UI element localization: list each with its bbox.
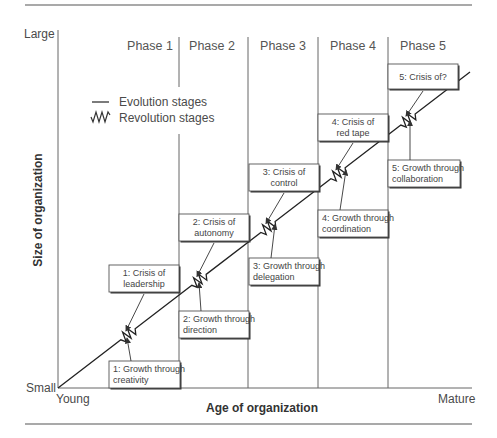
legend: Evolution stages Revolution stages	[91, 95, 214, 125]
growth-box-line2: creativity	[113, 375, 149, 385]
crisis-box-line1: 2: Crisis of	[193, 217, 236, 227]
y-bottom-label: Small	[26, 381, 56, 395]
growth-box-line2: collaboration	[392, 174, 443, 184]
crisis-box-line2: control	[270, 178, 297, 188]
crisis-arrow	[406, 91, 423, 116]
growth-box-2: 2: Growth throughdirection	[179, 311, 255, 340]
phase-label-1: Phase 1	[127, 39, 173, 53]
crisis-box-line2: leadership	[123, 279, 165, 289]
growth-arrow	[127, 338, 131, 361]
crisis-arrow	[126, 294, 144, 331]
growth-box-line1: 2: Growth through	[183, 314, 255, 324]
evolution-legend-label: Evolution stages	[119, 95, 207, 109]
growth-box-5: 5: Growth throughcollaboration	[388, 160, 464, 189]
crisis-box-3: 3: Crisis ofcontrol	[249, 164, 321, 193]
growth-box-line1: 5: Growth through	[392, 163, 464, 173]
crisis-box-line2: autonomy	[194, 228, 234, 238]
y-top-label: Large	[24, 27, 55, 41]
greiner-growth-diagram: 1: Growth throughcreativity2: Growth thr…	[0, 0, 497, 438]
growth-box-line2: coordination	[322, 224, 371, 234]
crisis-box-4: 4: Crisis ofred tape	[318, 114, 390, 143]
x-right-label: Mature	[438, 392, 476, 406]
growth-box-line1: 3: Growth through	[253, 261, 325, 271]
x-left-label: Young	[56, 392, 90, 406]
phase-label-5: Phase 5	[400, 39, 446, 53]
growth-arrow	[199, 283, 201, 311]
crisis-box-line1: 3: Crisis of	[263, 167, 306, 177]
revolution-legend-label: Revolution stages	[119, 111, 214, 125]
crisis-box-line2: red tape	[336, 128, 369, 138]
crisis-box-5: 5: Crisis of?	[388, 64, 460, 91]
crisis-box-line1: 5: Crisis of?	[399, 72, 447, 82]
crisis-box-2: 2: Crisis ofautonomy	[179, 214, 251, 243]
crisis-box-line1: 1: Crisis of	[123, 268, 166, 278]
growth-arrow	[271, 225, 275, 258]
growth-box-4: 4: Growth throughcoordination	[318, 210, 394, 239]
crisis-arrow	[336, 143, 353, 170]
crisis-box-line1: 4: Crisis of	[332, 117, 375, 127]
revolution-legend-icon	[91, 112, 110, 122]
growth-box-1: 1: Growth throughcreativity	[109, 361, 185, 390]
crisis-box-1: 1: Crisis ofleadership	[109, 265, 181, 294]
growth-box-line1: 4: Growth through	[322, 213, 394, 223]
phase-label-2: Phase 2	[189, 39, 235, 53]
crisis-arrow	[266, 193, 284, 223]
growth-box-line2: delegation	[253, 272, 295, 282]
growth-box-line2: direction	[183, 325, 217, 335]
x-axis-title: Age of organization	[206, 401, 318, 415]
crisis-arrow	[197, 243, 214, 276]
phase-label-3: Phase 3	[260, 39, 306, 53]
phase-label-4: Phase 4	[330, 39, 376, 53]
y-axis-title: Size of organization	[31, 153, 45, 266]
growth-box-3: 3: Growth throughdelegation	[249, 258, 325, 287]
growth-box-line1: 1: Growth through	[113, 364, 185, 374]
